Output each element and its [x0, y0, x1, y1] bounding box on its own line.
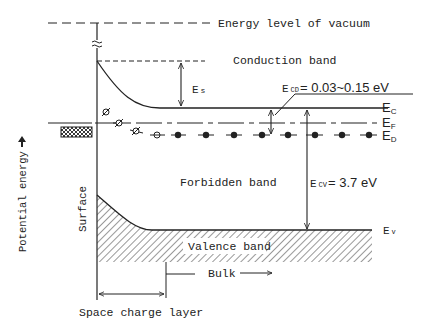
- potential-energy-arrow-icon: [18, 136, 26, 147]
- surface-state-block: [61, 127, 92, 137]
- neutral-donor: [198, 132, 214, 138]
- conduction-band-label: Conduction band: [233, 54, 337, 67]
- ev-label: Ev: [383, 225, 396, 237]
- es-label: Es: [192, 84, 206, 96]
- ecv-label: ECV= 3.7 eV: [310, 175, 377, 190]
- potential-energy-label: Potential energy: [17, 151, 29, 252]
- space-charge-layer-label: Space charge layer: [79, 306, 203, 319]
- valence-band-edge: [97, 195, 372, 230]
- ionized-donor: [150, 132, 165, 138]
- neutral-donor: [171, 132, 186, 138]
- ionized-donor: [130, 127, 143, 135]
- valence-band-label: Valence band: [188, 240, 271, 253]
- ec-label: EC: [382, 100, 397, 116]
- forbidden-band-label: Forbidden band: [180, 176, 277, 189]
- neutral-donor: [334, 132, 350, 138]
- surface-label: Surface: [77, 186, 89, 232]
- neutral-donor: [360, 132, 377, 138]
- neutral-donor: [306, 132, 323, 138]
- ecd-label: ECD= 0.03~0.15 eV: [282, 80, 389, 95]
- ionized-donor: [102, 108, 110, 116]
- band-diagram: Energy level of vacuum Conduction band E…: [0, 0, 435, 326]
- bulk-label: Bulk: [208, 267, 236, 280]
- neutral-donor: [226, 132, 242, 138]
- ionized-donor: [113, 119, 126, 127]
- neutral-donor: [253, 132, 270, 138]
- ecd-leader-diagonal: [275, 94, 295, 115]
- vacuum-level-label: Energy level of vacuum: [218, 17, 370, 30]
- neutral-donor: [280, 132, 297, 138]
- axis-break-mark: [92, 41, 102, 47]
